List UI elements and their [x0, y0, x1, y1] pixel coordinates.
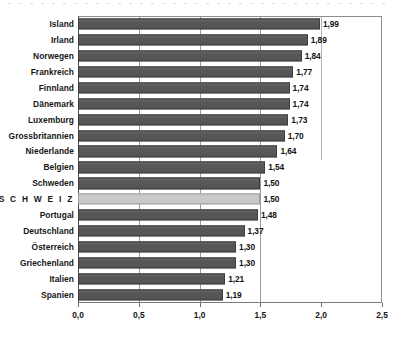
bar-track [78, 130, 285, 141]
category-label: Deutschland [23, 226, 74, 236]
bar-row: Island1,99 [0, 16, 401, 32]
bar-row: Griechenland1,30 [0, 255, 401, 271]
x-axis: 0,00,51,01,52,02,5 [78, 303, 382, 333]
bar-row: Norwegen1,84 [0, 48, 401, 64]
category-label: Luxemburg [28, 115, 74, 125]
bar [78, 130, 285, 141]
category-label: Italien [49, 274, 74, 284]
bar [78, 178, 260, 189]
bar [78, 162, 265, 173]
bar-track [78, 194, 260, 205]
bar [78, 242, 236, 253]
bar-row: Spanien1,19 [0, 287, 401, 303]
x-tick-mark [200, 303, 201, 307]
value-label: 1,73 [291, 115, 307, 125]
x-tick-label: 1,0 [194, 310, 206, 320]
category-label: Dänemark [33, 99, 74, 109]
value-label: 1,89 [311, 35, 327, 45]
bar-track [78, 162, 265, 173]
bar [78, 66, 293, 77]
value-label: 1,37 [248, 226, 264, 236]
value-label: 1,30 [239, 242, 255, 252]
bar-row: Italien1,21 [0, 271, 401, 287]
bar [78, 34, 308, 45]
bar-track [78, 289, 223, 300]
category-label: Irland [51, 35, 74, 45]
x-tick-mark [78, 303, 79, 307]
x-tick-mark [321, 303, 322, 307]
x-tick-label: 2,0 [315, 310, 327, 320]
category-label: Island [49, 19, 74, 29]
bar-track [78, 18, 320, 29]
category-label: Spanien [41, 290, 74, 300]
bar [78, 82, 290, 93]
bar-track [78, 178, 260, 189]
bar [78, 226, 245, 237]
value-label: 1,21 [228, 274, 244, 284]
category-label: Niederlande [26, 146, 75, 156]
bar-track [78, 66, 293, 77]
bar-row: Finnland1,74 [0, 80, 401, 96]
bar [78, 210, 258, 221]
scan-artifact [0, 0, 401, 9]
value-label: 1,74 [293, 83, 309, 93]
bar-track [78, 146, 277, 157]
bar-row: Luxemburg1,73 [0, 112, 401, 128]
bar-rows: Island1,99Irland1,89Norwegen1,84Frankrei… [0, 16, 401, 303]
bar [78, 146, 277, 157]
bar [78, 50, 302, 61]
bar [78, 273, 225, 284]
bar-row: Grossbritannien1,70 [0, 128, 401, 144]
bar-row: Schweden1,50 [0, 175, 401, 191]
category-label: S C H W E I Z [0, 194, 74, 204]
bar-row: Portugal1,48 [0, 207, 401, 223]
bar-track [78, 273, 225, 284]
category-label: Griechenland [20, 258, 74, 268]
x-tick-mark [139, 303, 140, 307]
x-tick-label: 2,5 [376, 310, 388, 320]
bar-row: Dänemark1,74 [0, 96, 401, 112]
x-tick-label: 0,0 [72, 310, 84, 320]
value-label: 1,48 [261, 210, 277, 220]
bar [78, 194, 260, 205]
category-label: Norwegen [33, 51, 74, 61]
bar-row: Niederlande1,64 [0, 144, 401, 160]
bar [78, 114, 288, 125]
value-label: 1,30 [239, 258, 255, 268]
bar-track [78, 210, 258, 221]
bar-track [78, 242, 236, 253]
value-label: 1,50 [263, 178, 279, 188]
bar [78, 18, 320, 29]
bar-row: Irland1,89 [0, 32, 401, 48]
bar-row: Österreich1,30 [0, 239, 401, 255]
bar [78, 257, 236, 268]
value-label: 1,54 [268, 162, 284, 172]
category-label: Österreich [32, 242, 74, 252]
value-label: 1,50 [263, 194, 279, 204]
bar-track [78, 82, 290, 93]
x-tick-label: 0,5 [133, 310, 145, 320]
category-label: Frankreich [31, 67, 74, 77]
value-label: 1,84 [305, 51, 321, 61]
category-label: Schweden [32, 178, 74, 188]
category-label: Finnland [39, 83, 74, 93]
bar-chart: Island1,99Irland1,89Norwegen1,84Frankrei… [0, 0, 401, 340]
value-label: 1,70 [288, 131, 304, 141]
bar-track [78, 114, 288, 125]
x-tick-mark [382, 303, 383, 307]
value-label: 1,19 [226, 290, 242, 300]
bar [78, 98, 290, 109]
bar-row: Belgien1,54 [0, 159, 401, 175]
category-label: Belgien [43, 162, 74, 172]
bar-row: Deutschland1,37 [0, 223, 401, 239]
bar-track [78, 98, 290, 109]
bar-track [78, 226, 245, 237]
bar-track [78, 257, 236, 268]
category-label: Portugal [40, 210, 74, 220]
value-label: 1,74 [293, 99, 309, 109]
value-label: 1,99 [323, 19, 339, 29]
category-label: Grossbritannien [9, 131, 74, 141]
x-tick-mark [260, 303, 261, 307]
bar [78, 289, 223, 300]
value-label: 1,64 [280, 146, 296, 156]
